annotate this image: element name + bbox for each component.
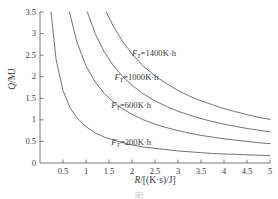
curve-label-1400: FT=1400K·h	[132, 48, 176, 59]
y-tick-label: 3.5	[10, 7, 36, 17]
y-tick-label: 0.5	[10, 136, 36, 146]
y-tick-label: 2	[10, 71, 36, 81]
x-tick-label: 5	[257, 166, 278, 176]
x-axis-label-unit: /[(K·s)/J]	[140, 175, 175, 185]
figure-chart-q-vs-r: Q/MJ R/[(K·s)/J] 00.511.522.533.5 0.511.…	[0, 0, 278, 199]
curve-label-value: =200K·h	[120, 137, 151, 147]
y-tick-label: 3	[10, 28, 36, 38]
curve-label-value: =1000K·h	[123, 72, 158, 82]
y-tick-label: 2.5	[10, 50, 36, 60]
curve-label-1000: FT=1000K·h	[115, 72, 159, 83]
curve-label-600: FT=600K·h	[111, 100, 151, 111]
x-axis-label: R/[(K·s)/J]	[40, 175, 270, 185]
y-axis-label-symbol: Q	[7, 83, 17, 90]
y-tick-label: 1	[10, 114, 36, 124]
curve-label-value: =600K·h	[120, 100, 151, 110]
y-tick-label: 1.5	[10, 93, 36, 103]
curve-series-600	[69, 12, 270, 144]
curve-series-200	[51, 12, 270, 156]
curve-label-200: FT=200K·h	[111, 137, 151, 148]
data-curves	[51, 12, 270, 156]
figure-caption: 图	[0, 190, 278, 199]
curve-label-value: =1400K·h	[141, 48, 176, 58]
y-tick-label: 0	[10, 158, 36, 168]
